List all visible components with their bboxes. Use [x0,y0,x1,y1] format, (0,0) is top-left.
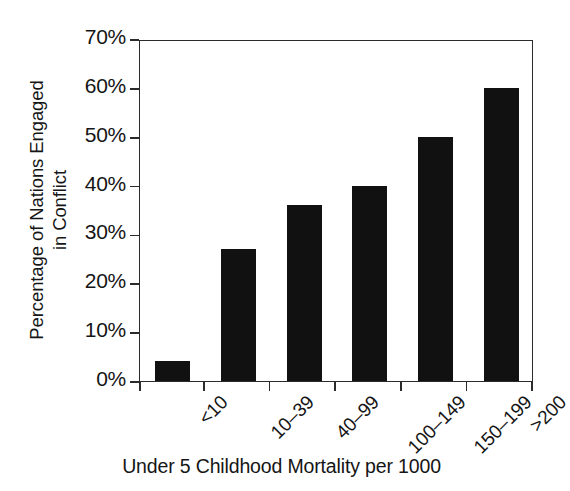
bar [484,88,519,381]
x-axis-tick-label: 10–39 [267,392,317,442]
y-axis-tick-mark [130,137,139,139]
x-axis-tick-mark [466,382,468,391]
bar [221,249,256,381]
bar [352,186,387,381]
bar [418,137,453,381]
x-axis-tick-label: >200 [526,392,569,435]
x-axis-tick-label: 100–149 [404,392,469,457]
y-axis-tick-mark [130,186,139,188]
x-axis-tick-mark [269,382,271,391]
y-axis-tick-label: 50% [85,124,126,145]
y-axis-tick-label: 70% [85,26,126,47]
y-axis-tick-label: 40% [85,173,126,194]
y-axis-tick-mark [130,283,139,285]
x-axis-tick-mark [139,382,141,391]
x-axis-tick-mark [334,382,336,391]
x-axis-tick-label: <10 [195,392,231,428]
y-axis-tick-mark [130,39,139,41]
x-axis-tick-label: 150–199 [470,392,535,457]
x-axis-tick-mark [203,382,205,391]
x-axis-title: Under 5 Childhood Mortality per 1000 [0,455,563,478]
y-axis-tick-mark [130,332,139,334]
y-axis-ticks: 0%10%20%30%40%50%60%70% [0,40,139,382]
x-axis-tick-label: 40–99 [332,392,382,442]
x-axis-tick-mark [531,382,533,391]
bar [155,361,190,381]
x-axis-tick-labels: <1010–3940–99100–149150–199>200 [139,392,533,454]
y-axis-tick-mark [130,235,139,237]
y-axis-tick-mark [130,381,139,383]
y-axis-tick-mark [130,88,139,90]
bar-series [140,41,532,381]
x-axis-tick-mark [400,382,402,391]
y-axis-tick-label: 60% [85,75,126,96]
x-axis-ticks [139,382,533,392]
y-axis-tick-label: 20% [85,270,126,291]
bar [287,205,322,381]
y-axis-tick-label: 0% [96,368,126,389]
plot-area [139,40,533,382]
y-axis-tick-label: 30% [85,221,126,242]
y-axis-tick-label: 10% [85,319,126,340]
